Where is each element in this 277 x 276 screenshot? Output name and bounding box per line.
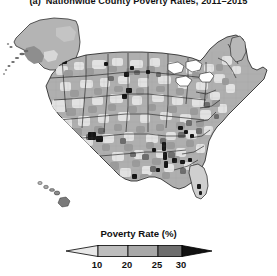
legend-tick-labels: 10 20 25 30 xyxy=(0,259,277,273)
legend-swatch-25-30 xyxy=(158,246,182,257)
hawaii-maui xyxy=(54,191,60,195)
contiguous-us xyxy=(46,35,268,199)
legend-swatch-20-25 xyxy=(128,246,158,257)
legend-swatch-above-30 xyxy=(182,246,212,257)
legend-tick-20: 20 xyxy=(122,259,132,270)
legend-colorbar-wrap xyxy=(0,243,277,259)
florida-peninsula xyxy=(189,164,208,199)
legend-swatch-below-10 xyxy=(66,246,98,257)
figure-title-bar: (a) Nationwide County Poverty Rates, 201… xyxy=(0,0,277,8)
hawaii-oahu xyxy=(44,185,49,188)
legend-tick-30: 30 xyxy=(176,259,186,270)
legend-swatch-10-20 xyxy=(98,246,128,257)
hawaii-inset xyxy=(38,181,70,207)
legend-tick-10: 10 xyxy=(92,259,102,270)
choropleth-map xyxy=(0,8,277,226)
hawaii-molokai xyxy=(49,189,54,192)
page-title: Nationwide County Poverty Rates, 2011–20… xyxy=(46,0,248,6)
legend-colorbar xyxy=(64,243,214,259)
hawaii-kauai xyxy=(38,181,42,184)
panel-label: (a) xyxy=(29,0,40,6)
legend-title: Poverty Rate (%) xyxy=(0,228,277,239)
map-legend: Poverty Rate (%) 10 20 25 30 xyxy=(0,228,277,276)
legend-tick-25: 25 xyxy=(152,259,162,270)
map-svg xyxy=(0,8,277,226)
hawaii-bigisland xyxy=(58,197,70,207)
figure-panel: (a) Nationwide County Poverty Rates, 201… xyxy=(0,0,277,276)
